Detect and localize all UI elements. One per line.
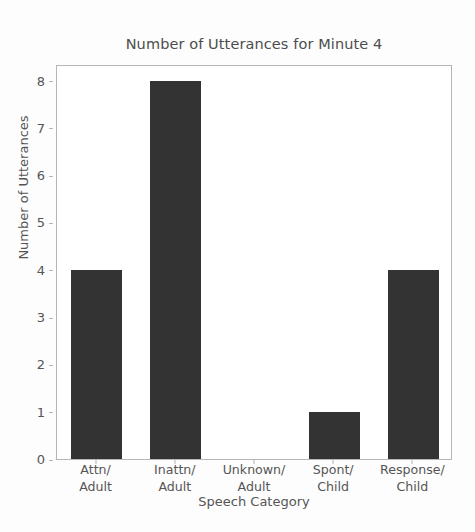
y-tick-label: 1 xyxy=(37,404,45,422)
bar xyxy=(150,81,201,459)
x-tick-label-line: Child xyxy=(380,478,445,495)
plot-area xyxy=(56,65,452,460)
bars-layer xyxy=(57,66,451,459)
x-tick-label-line: Adult xyxy=(154,478,196,495)
y-tick-mark xyxy=(49,365,53,366)
y-tick-label: 6 xyxy=(37,167,45,185)
bar xyxy=(71,270,122,459)
x-tick-label-line: Unknown/ xyxy=(223,461,286,478)
x-tick-label: Attn/Adult xyxy=(79,461,112,495)
x-tick-label-line: Child xyxy=(313,478,354,495)
x-tick-label: Inattn/Adult xyxy=(154,461,196,495)
y-tick-label: 4 xyxy=(37,262,45,280)
y-axis-label: Number of Utterances xyxy=(16,88,31,288)
bar xyxy=(388,270,439,459)
y-tick-label: 0 xyxy=(37,451,45,469)
x-tick-label-line: Response/ xyxy=(380,461,445,478)
x-tick-label: Response/Child xyxy=(380,461,445,495)
y-tick-mark xyxy=(49,318,53,319)
bar xyxy=(309,412,360,459)
chart-title: Number of Utterances for Minute 4 xyxy=(56,36,452,52)
x-tick-label-line: Adult xyxy=(79,478,112,495)
x-tick-label-line: Spont/ xyxy=(313,461,354,478)
x-tick-label-line: Inattn/ xyxy=(154,461,196,478)
x-tick-label: Unknown/Adult xyxy=(223,461,286,495)
y-tick-mark xyxy=(49,128,53,129)
y-tick-mark xyxy=(49,81,53,82)
y-tick-label: 5 xyxy=(37,214,45,232)
chart-figure: Number of Utterances for Minute 4 Number… xyxy=(0,0,475,532)
y-tick-mark xyxy=(49,270,53,271)
y-tick-label: 7 xyxy=(37,120,45,138)
x-tick-label-line: Attn/ xyxy=(79,461,112,478)
y-tick-label: 3 xyxy=(37,309,45,327)
y-tick-mark xyxy=(49,412,53,413)
y-tick-mark xyxy=(49,176,53,177)
x-tick-label-line: Adult xyxy=(223,478,286,495)
x-tick-label: Spont/Child xyxy=(313,461,354,495)
y-tick-label: 2 xyxy=(37,356,45,374)
y-tick-mark xyxy=(49,223,53,224)
y-tick-label: 8 xyxy=(37,73,45,91)
y-tick-mark xyxy=(49,460,53,461)
x-axis-label: Speech Category xyxy=(56,494,452,509)
